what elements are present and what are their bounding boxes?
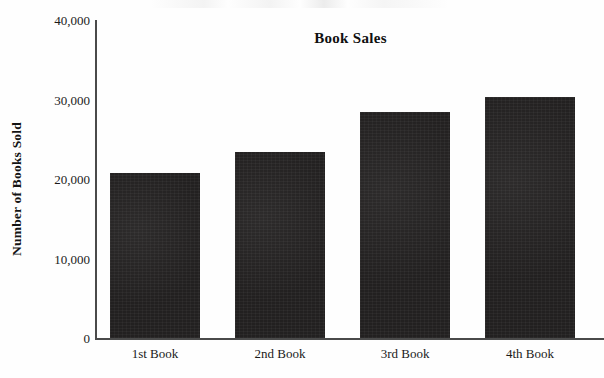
y-tick-label-20000: 20,000 [28, 173, 90, 186]
scan-artifact [150, 0, 450, 8]
y-tick-label-0: 0 [28, 332, 90, 345]
bar-4th-book [485, 97, 575, 338]
y-tick-label-40000: 40,000 [28, 14, 90, 27]
x-tick-label-4th-book: 4th Book [485, 346, 575, 362]
y-axis-title: Number of Books Sold [0, 0, 26, 378]
x-tick-label-1st-book: 1st Book [110, 346, 200, 362]
x-axis-tick-labels: 1st Book 2nd Book 3rd Book 4th Book [97, 346, 604, 370]
y-tick-label-30000: 30,000 [28, 94, 90, 107]
bar-3rd-book [360, 112, 450, 338]
bar-chart-figure: Number of Books Sold 40,000 30,000 20,00… [0, 0, 604, 378]
x-tick-label-3rd-book: 3rd Book [360, 346, 450, 362]
x-tick-label-2nd-book: 2nd Book [235, 346, 325, 362]
chart-title: Book Sales [97, 30, 604, 47]
bar-1st-book [110, 173, 200, 338]
y-axis-title-text: Number of Books Sold [9, 122, 25, 256]
y-tick-label-10000: 10,000 [28, 253, 90, 266]
x-axis-line [95, 338, 604, 340]
bar-2nd-book [235, 152, 325, 338]
y-axis-tick-labels: 40,000 30,000 20,000 10,000 0 [26, 0, 90, 378]
plot-area [97, 20, 604, 338]
